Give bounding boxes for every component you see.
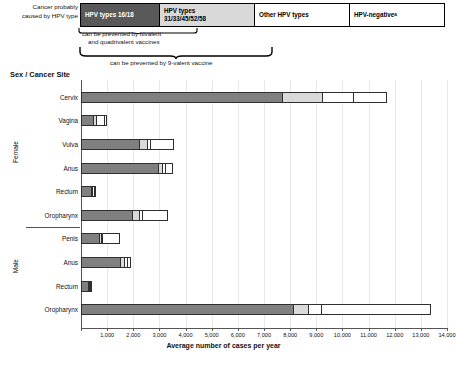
x-tick (238, 328, 239, 331)
legend-item-hpv-other5-line1: HPV types (164, 7, 195, 14)
category-label-oropharynx: Oropharynx (45, 306, 78, 313)
legend-item-hpv-negative-label: HPV-negative (354, 11, 394, 19)
x-tick-label: 13,000 (412, 332, 429, 338)
x-tick (212, 328, 213, 331)
bar-female-vagina[interactable] (81, 115, 107, 126)
bar-segment-2 (308, 304, 321, 315)
group-separator (26, 227, 80, 228)
bar-segment-2 (322, 92, 353, 103)
note-nine-valent: can be prevented by 9-valent vaccine (110, 59, 213, 67)
legend-item-hpv-16-18-label: HPV types 16/18 (85, 11, 134, 19)
category-label-oropharynx: Oropharynx (45, 211, 78, 218)
bar-male-penis[interactable] (81, 233, 120, 244)
x-tick (421, 328, 422, 331)
bar-male-oropharynx[interactable] (81, 304, 431, 315)
x-tick-label: 6,000 (231, 332, 245, 338)
legend-header: Cancer probably caused by HPV type HPV t… (0, 0, 447, 30)
bar-segment-1 (132, 210, 139, 221)
gridline (395, 80, 396, 328)
category-label-cervix: Cervix (60, 93, 78, 100)
legend-caption-line2: caused by HPV type (2, 12, 78, 21)
legend-caption: Cancer probably caused by HPV type (2, 3, 78, 20)
x-tick (186, 328, 187, 331)
x-tick (447, 328, 448, 331)
note-bivalent-line1: can be prevented by bivalent (82, 30, 161, 38)
gridline (238, 80, 239, 328)
category-labels-column: CervixVaginaVulvaAnusRectumOropharynxPen… (0, 80, 82, 328)
bar-male-anus[interactable] (81, 257, 131, 268)
x-tick-label: 1,000 (100, 332, 114, 338)
legend-item-hpv-16-18[interactable]: HPV types 16/18 (80, 3, 160, 27)
gridline (186, 80, 187, 328)
bar-segment-3 (102, 233, 120, 244)
bar-male-rectum[interactable] (81, 281, 92, 292)
gridline (107, 80, 108, 328)
x-tick (369, 328, 370, 331)
gridline (133, 80, 134, 328)
category-label-anus: Anus (63, 164, 78, 171)
x-tick-label: 8,000 (283, 332, 297, 338)
x-tick (81, 328, 82, 331)
bar-segment-3 (353, 92, 387, 103)
bar-segment-1 (282, 92, 321, 103)
bar-segment-0 (81, 139, 139, 150)
bar-female-rectum[interactable] (81, 186, 96, 197)
bar-segment-1 (139, 139, 148, 150)
legend-caption-line1: Cancer probably (2, 3, 78, 12)
gridline (290, 80, 291, 328)
bar-segment-3 (127, 257, 131, 268)
x-tick-label: 12,000 (386, 332, 403, 338)
note-bivalent: can be prevented by bivalent and quadriv… (82, 30, 161, 47)
gridline (264, 80, 265, 328)
x-tick-label: 3,000 (152, 332, 166, 338)
category-label-vulva: Vulva (62, 141, 78, 148)
legend-swatch-row: HPV types 16/18 HPV types 31/33/45/52/58… (80, 3, 445, 27)
x-tick (342, 328, 343, 331)
bar-segment-0 (81, 257, 120, 268)
legend-item-hpv-negative-superscript: a (394, 11, 397, 19)
x-tick (264, 328, 265, 331)
category-label-rectum: Rectum (56, 188, 78, 195)
bar-female-oropharynx[interactable] (81, 210, 168, 221)
group-label-female: Female (12, 141, 19, 163)
bar-segment-0 (81, 233, 99, 244)
x-tick (159, 328, 160, 331)
legend-item-hpv-other5-line2: 31/33/45/52/58 (164, 15, 206, 22)
x-axis-title: Average number of cases per year (0, 342, 447, 349)
bar-segment-0 (81, 115, 93, 126)
page-title: Sex / Cancer Site (10, 70, 70, 79)
bar-segment-3 (321, 304, 431, 315)
bar-segment-3 (165, 163, 173, 174)
gridline (159, 80, 160, 328)
bar-female-vulva[interactable] (81, 139, 174, 150)
x-tick (290, 328, 291, 331)
legend-item-hpv-negative[interactable]: HPV-negativea (350, 3, 445, 27)
bar-segment-3 (104, 115, 107, 126)
legend-item-other-hpv[interactable]: Other HPV types (255, 3, 350, 27)
bar-segment-0 (81, 92, 282, 103)
x-axis: 1,0002,0003,0004,0005,0006,0007,0008,000… (0, 328, 447, 352)
gridline (212, 80, 213, 328)
bar-segment-1 (293, 304, 309, 315)
bar-female-cervix[interactable] (81, 92, 387, 103)
x-tick-label: 5,000 (205, 332, 219, 338)
gridline (316, 80, 317, 328)
bar-segment-3 (90, 281, 92, 292)
x-tick-label: 9,000 (309, 332, 323, 338)
legend-item-other-hpv-label: Other HPV types (259, 11, 309, 19)
category-label-anus: Anus (63, 259, 78, 266)
x-tick (107, 328, 108, 331)
legend-item-hpv-other5[interactable]: HPV types 31/33/45/52/58 (160, 3, 255, 27)
chart-plot-area: CervixVaginaVulvaAnusRectumOropharynxPen… (0, 80, 447, 328)
legend-item-hpv-other5-label: HPV types 31/33/45/52/58 (164, 7, 206, 22)
bar-segment-0 (81, 210, 132, 221)
gridline (421, 80, 422, 328)
x-tick-label: 2,000 (126, 332, 140, 338)
bar-segment-0 (81, 281, 88, 292)
nine-valent-brace-icon (78, 47, 274, 59)
category-label-rectum: Rectum (56, 282, 78, 289)
group-label-male: Male (12, 259, 19, 273)
x-tick (133, 328, 134, 331)
bar-segment-0 (81, 304, 293, 315)
bar-female-anus[interactable] (81, 163, 173, 174)
